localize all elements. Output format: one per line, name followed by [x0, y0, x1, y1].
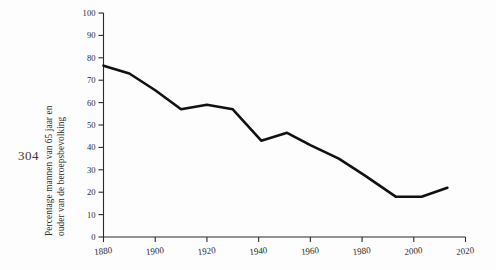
- x-tick-mark-group: [104, 237, 466, 242]
- y-tick-label: 30: [87, 165, 96, 175]
- x-tick-label: 2000: [404, 245, 423, 257]
- x-tick-label: 1900: [145, 245, 164, 257]
- page-number: 304: [18, 148, 39, 164]
- x-tick-label: 1980: [352, 245, 371, 257]
- y-axis-label: Percentage mannen van 65 jaar en ouder v…: [52, 14, 86, 236]
- data-series-line: [104, 66, 448, 197]
- y-tick-label: 60: [87, 98, 96, 108]
- x-tick-label: 1960: [301, 245, 320, 257]
- y-tick-label: 40: [87, 142, 96, 152]
- y-tick-label: 70: [87, 75, 96, 85]
- y-tick-label: 0: [91, 232, 95, 242]
- y-tick-mark-group: [99, 13, 104, 237]
- x-tick-label: 1920: [197, 245, 216, 257]
- y-tick-label: 80: [87, 53, 96, 63]
- x-tick-label-group: 18801900192019401960198020002020: [94, 245, 475, 257]
- y-tick-label: 20: [87, 187, 96, 197]
- x-tick-label: 2020: [456, 245, 475, 257]
- x-tick-label: 1880: [94, 245, 113, 257]
- y-tick-label: 90: [87, 30, 96, 40]
- y-axis-label-line-1: Percentage mannen van 65 jaar en: [44, 106, 54, 236]
- figure-container: 304 Percentage mannen van 65 jaar en oud…: [0, 0, 496, 270]
- x-tick-label: 1940: [249, 245, 268, 257]
- y-axis-label-line-2: ouder van de beroepsbevolking: [56, 117, 66, 236]
- y-tick-label: 10: [87, 210, 96, 220]
- y-tick-label: 50: [87, 120, 96, 130]
